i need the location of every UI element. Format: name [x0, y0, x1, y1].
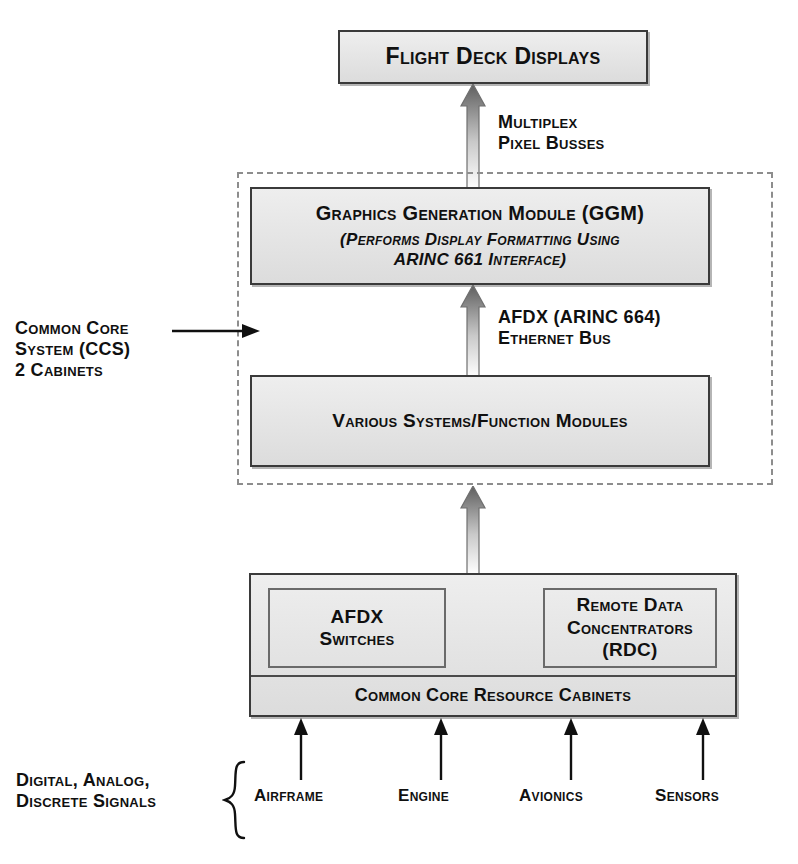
- source-label-sensors: Sensors: [655, 786, 719, 806]
- afdx-switches-box: AFDX Switches: [268, 588, 446, 668]
- ggm-title: Graphics Generation Module (GGM): [316, 202, 645, 226]
- afdx-ethernet-bus-label: AFDX (ARINC 664) Ethernet Bus: [498, 307, 661, 349]
- ccs-pointer-arrow: [172, 320, 260, 342]
- remote-data-concentrators-box: Remote Data Concentrators (RDC): [543, 588, 717, 668]
- source-label-airframe: Airframe: [254, 786, 323, 806]
- rdc-line1: Remote Data: [576, 594, 683, 616]
- flight-deck-displays-label: Flight Deck Displays: [386, 43, 601, 70]
- rdc-line2: Concentrators: [567, 617, 693, 639]
- common-core-resource-cabinets-label: Common Core Resource Cabinets: [355, 685, 632, 706]
- various-systems-function-modules-box: Various Systems/Function Modules: [250, 375, 710, 467]
- ggm-subtitle-line1: (Performs Display Formatting Using: [340, 230, 620, 250]
- signals-annotation-label: Digital, Analog, Discrete Signals: [16, 770, 156, 812]
- signals-brace: [222, 760, 248, 840]
- source-label-avionics: Avionics: [519, 786, 583, 806]
- multiplex-pixel-busses-label: Multiplex Pixel Busses: [498, 112, 605, 154]
- ccs-annotation-label: Common Core System (CCS) 2 Cabinets: [15, 318, 130, 382]
- diagram-canvas: Flight Deck Displays Multiplex Pixel Bus…: [0, 0, 798, 864]
- flight-deck-displays-box: Flight Deck Displays: [338, 30, 648, 84]
- source-label-engine: Engine: [398, 786, 449, 806]
- cabinet-caption-band: Common Core Resource Cabinets: [251, 677, 735, 715]
- ggm-subtitle-line2: ARINC 661 Interface): [394, 250, 567, 270]
- graphics-generation-module-box: Graphics Generation Module (GGM) (Perfor…: [250, 187, 710, 285]
- cabinets-to-ccs-arrow: [456, 486, 492, 574]
- avionics-arrow: [562, 718, 580, 780]
- afdx-ethernet-bus-arrow: [456, 285, 492, 377]
- sensors-arrow: [694, 718, 712, 780]
- afdx-switches-line1: AFDX: [331, 606, 384, 628]
- airframe-arrow: [292, 718, 310, 780]
- rdc-line3: (RDC): [602, 639, 657, 661]
- engine-arrow: [432, 718, 450, 780]
- various-systems-label: Various Systems/Function Modules: [332, 410, 628, 432]
- afdx-switches-line2: Switches: [319, 628, 394, 650]
- common-core-resource-cabinets-box: AFDX Switches Remote Data Concentrators …: [249, 573, 737, 717]
